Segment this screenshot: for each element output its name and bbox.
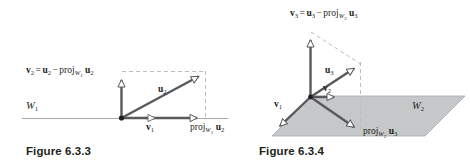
label-v2-decomposition-v-sub: 2 [31, 69, 34, 76]
label-proj-w2-u3-sub-w-index: 2 [384, 134, 387, 139]
label-v2-decomposition: v2=u2−projW1 u2 [26, 66, 94, 76]
label-subspace-w1-base: W [26, 100, 35, 111]
label-proj-w2-u3-proj: proj [363, 126, 378, 136]
label-v3-decomposition-u-sub: 3 [312, 12, 315, 19]
dashed-guide-v3-to-u3 [311, 32, 361, 64]
label-u2: u2 [158, 85, 167, 95]
label-v1-sub: 1 [279, 103, 282, 110]
label-v3-decomposition-v-sub: 3 [295, 12, 298, 19]
label-v3-decomposition-proj-sub-w-index: 2 [344, 16, 347, 21]
label-proj-w1-u2-u-sub: 2 [221, 126, 224, 133]
label-proj-w1-u2-proj: proj [190, 122, 205, 132]
label-v2-decomposition-proj: proj [59, 65, 74, 75]
label-v3-decomposition: v3=u3−projW2 u3 [290, 9, 358, 19]
label-subspace-w2-sub: 2 [421, 105, 424, 112]
label-u3: u3 [325, 66, 334, 76]
figure-page: v2=u2−projW1 u2 u2 v1 projW1 u2 W1 Figur… [0, 0, 470, 163]
label-v2: v2 [323, 84, 331, 94]
label-v2-decomposition-proj-sub-w-index: 1 [80, 73, 83, 78]
label-v2-decomposition-u-sub: 2 [48, 69, 51, 76]
origin-point [308, 95, 313, 100]
label-proj-w1-u2-sub-w: W [205, 126, 211, 133]
figure-6-3-3-graphic [0, 0, 235, 163]
label-proj-w2-u3: projW2 u3 [363, 127, 397, 137]
label-v2-sub: 2 [328, 87, 331, 94]
label-v1-sub: 1 [151, 126, 154, 133]
figure-6-3-3-caption: Figure 6.3.3 [26, 145, 91, 157]
label-u3-sub: 3 [330, 69, 333, 76]
label-subspace-w1-sub: 1 [35, 105, 38, 112]
label-v2-decomposition-u2-sub: 2 [90, 69, 93, 76]
label-v3-decomposition-u2-sub: 3 [354, 12, 357, 19]
figure-6-3-4-graphic [235, 0, 470, 163]
vector-u2 [122, 77, 199, 119]
label-proj-w2-u3-sub-w: W [378, 130, 384, 137]
label-v1: v1 [146, 123, 154, 133]
figure-6-3-3: v2=u2−projW1 u2 u2 v1 projW1 u2 W1 Figur… [0, 0, 235, 163]
label-proj-w2-u3-u-sub: 3 [394, 130, 397, 137]
label-v3-decomposition-proj: proj [323, 8, 338, 18]
label-proj-w1-u2-sub-w-index: 1 [211, 130, 214, 135]
label-v2-decomposition-u: u [42, 65, 47, 75]
origin-point [119, 115, 124, 120]
label-proj-w1-u2: projW1 u2 [190, 123, 224, 133]
label-subspace-w1: W1 [26, 101, 38, 112]
label-subspace-w2: W2 [412, 101, 424, 112]
label-v3-decomposition-u: u [306, 8, 311, 18]
label-subspace-w2-base: W [412, 100, 421, 111]
figure-6-3-4-caption: Figure 6.3.4 [259, 145, 324, 157]
figure-6-3-4: v3=u3−projW2 u3 u3 v2 v1 projW2 u3 W2 Fi… [235, 0, 470, 163]
label-u2-sub: 2 [163, 88, 166, 95]
label-v1: v1 [274, 100, 282, 110]
